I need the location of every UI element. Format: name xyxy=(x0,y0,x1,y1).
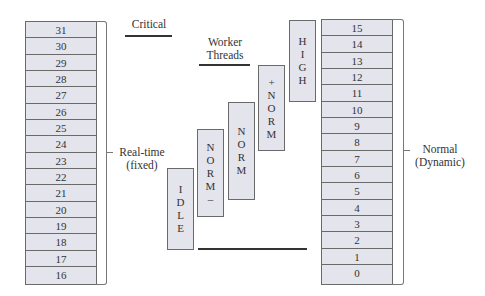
priority-cell: 12 xyxy=(322,69,392,85)
letter: E xyxy=(177,222,184,235)
letter: H xyxy=(299,35,307,48)
priority-cell: 3 xyxy=(322,216,392,232)
priority-cell: 26 xyxy=(26,104,96,120)
realtime-label-line1: Real-time xyxy=(112,146,172,159)
priority-cell: 13 xyxy=(322,53,392,69)
letter: R xyxy=(238,151,245,164)
priority-cell: 29 xyxy=(26,55,96,71)
priority-cell: 9 xyxy=(322,118,392,134)
priority-above-normal: + N O R M xyxy=(258,65,285,151)
priority-cell: 27 xyxy=(26,87,96,103)
priority-cell: 5 xyxy=(322,183,392,199)
priority-cell: 11 xyxy=(322,85,392,101)
critical-line xyxy=(125,35,172,37)
priority-cell: 18 xyxy=(26,234,96,250)
letter: M xyxy=(267,128,277,141)
letter: O xyxy=(238,138,246,151)
priority-high: H I G H xyxy=(289,20,316,102)
priority-cell: 14 xyxy=(322,36,392,52)
worker-label-line1: Worker xyxy=(197,36,253,49)
priority-cell: 2 xyxy=(322,232,392,248)
realtime-priority-column: 31 30 29 28 27 26 25 24 23 22 21 20 19 1… xyxy=(25,21,97,285)
priority-cell: 20 xyxy=(26,202,96,218)
priority-normal: N O R M xyxy=(228,102,255,200)
worker-threads-line xyxy=(199,64,250,66)
letter: M xyxy=(206,180,216,193)
priority-cell: 30 xyxy=(26,38,96,54)
worker-label-line2: Threads xyxy=(197,49,253,62)
priority-cell: 19 xyxy=(26,218,96,234)
priority-cell: 24 xyxy=(26,136,96,152)
priority-idle: I D L E xyxy=(167,168,194,250)
priority-cell: 6 xyxy=(322,167,392,183)
priority-cell: 0 xyxy=(322,265,392,281)
realtime-label: Real-time (fixed) xyxy=(112,146,172,172)
priority-cell: 17 xyxy=(26,251,96,267)
priority-cell: 10 xyxy=(322,102,392,118)
priority-cell: 28 xyxy=(26,71,96,87)
letter: N xyxy=(238,125,246,138)
priority-cell: 21 xyxy=(26,185,96,201)
priority-cell: 25 xyxy=(26,120,96,136)
letter: H xyxy=(299,74,307,87)
worker-threads-label: Worker Threads xyxy=(197,36,253,62)
normal-priority-column: 15 14 13 12 11 10 9 8 7 6 5 4 3 2 1 0 xyxy=(321,19,393,285)
priority-cell: 7 xyxy=(322,151,392,167)
priority-cell: 22 xyxy=(26,169,96,185)
letter: N xyxy=(207,141,215,154)
realtime-brace xyxy=(96,21,107,285)
letter: L xyxy=(177,209,184,222)
letter: G xyxy=(299,61,307,74)
priority-cell: 15 xyxy=(322,20,392,36)
priority-cell: 4 xyxy=(322,200,392,216)
letter: I xyxy=(301,48,305,61)
normal-label: Normal (Dynamic) xyxy=(408,143,472,169)
priority-cell: 16 xyxy=(26,267,96,283)
priority-cell: 23 xyxy=(26,153,96,169)
letter: + xyxy=(268,76,274,89)
priority-cell: 1 xyxy=(322,249,392,265)
normal-brace xyxy=(392,19,404,285)
normal-label-line1: Normal xyxy=(408,143,472,156)
priority-cell: 8 xyxy=(322,134,392,150)
priority-below-normal: N O R M – xyxy=(197,129,224,217)
normal-label-line2: (Dynamic) xyxy=(408,156,472,169)
letter: M xyxy=(237,164,247,177)
realtime-label-line2: (fixed) xyxy=(112,159,172,172)
priority-cell: 31 xyxy=(26,22,96,38)
letter: N xyxy=(268,89,276,102)
critical-label: Critical xyxy=(124,18,174,31)
letter: R xyxy=(268,115,275,128)
letter: O xyxy=(207,154,215,167)
letter: O xyxy=(268,102,276,115)
letter: I xyxy=(179,183,183,196)
letter: D xyxy=(177,196,185,209)
baseline xyxy=(198,248,307,250)
letter: R xyxy=(207,167,214,180)
letter: – xyxy=(208,193,214,206)
